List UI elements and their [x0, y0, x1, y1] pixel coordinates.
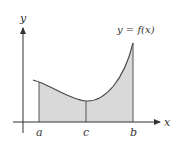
curve-label: y = f(x) — [116, 24, 155, 35]
area-under-curve-diagram: y x a c b y = f(x) — [0, 0, 180, 142]
point-b-label: b — [130, 126, 137, 139]
point-a-label: a — [36, 126, 43, 139]
point-c-label: c — [83, 126, 89, 139]
y-axis-label: y — [19, 12, 27, 25]
x-axis-label: x — [164, 116, 171, 129]
